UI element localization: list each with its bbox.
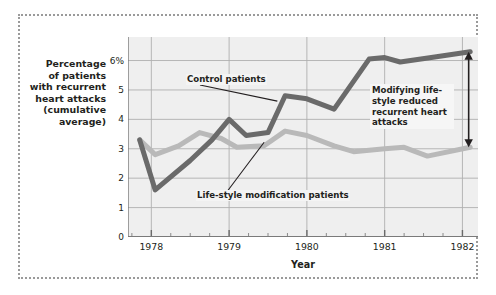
y-axis-tick-labels: 0123456% [96,37,124,237]
x-tick-label-1981: 1981 [373,241,397,252]
chart-figure: Percentage of patients with recurrent he… [0,0,496,295]
y-axis-title-line-5: (cumulative [22,104,106,116]
y-axis-title-line-4: heart attacks [22,93,106,105]
y-tick-label-0: 0 [98,232,124,242]
x-tick-label-1980: 1980 [295,241,319,252]
x-axis-title: Year [128,259,478,270]
x-axis-tick-labels: 19781979198019811982 [128,241,478,257]
annotation-control-patients: Control patients [186,74,267,85]
y-tick-label-2: 2 [98,173,124,183]
y-axis-title-line-1: Percentage [22,58,106,70]
y-tick-label-5: 5 [98,85,124,95]
y-tick-label-3: 3 [98,144,124,154]
y-axis-title: Percentage of patients with recurrent he… [22,58,106,128]
y-axis-title-line-6: average) [22,116,106,128]
plot-area [128,37,478,237]
plot-svg [128,37,478,237]
x-tick-label-1979: 1979 [217,241,241,252]
annotation-reduced-heart-attacks: Modifying life-style reduced recurrent h… [370,84,454,129]
y-axis-title-line-2: of patients [22,70,106,82]
x-tick-label-1982: 1982 [451,241,475,252]
y-tick-label-4: 4 [98,114,124,124]
annotation-lifestyle-patients: Life-style modification patients [196,190,350,201]
y-axis-title-line-3: with recurrent [22,81,106,93]
y-tick-label-6: 6% [98,56,124,66]
x-tick-label-1978: 1978 [139,241,163,252]
y-tick-label-1: 1 [98,203,124,213]
